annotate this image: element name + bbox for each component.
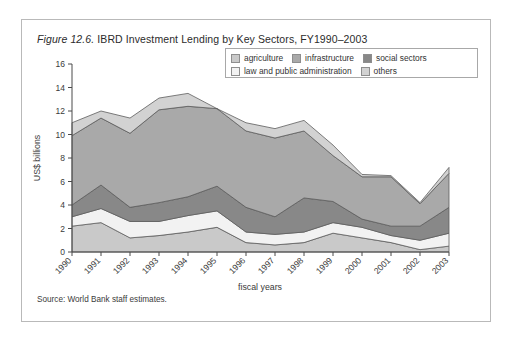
x-axis-ticks: 1990199119921993199419951996199719981999… bbox=[53, 252, 451, 276]
source-note: Source: World Bank staff estimates. bbox=[37, 295, 167, 304]
legend-label-law-and-public-administration: law and public administration bbox=[244, 66, 352, 76]
legend-row-2: law and public administration others bbox=[231, 65, 472, 77]
chart-legend: agriculture infrastructure social sector… bbox=[225, 48, 478, 78]
x-tick-label-1992: 1992 bbox=[111, 255, 132, 276]
legend-item-agriculture[interactable]: agriculture bbox=[231, 53, 283, 63]
legend-swatch-law-and-public-administration bbox=[231, 67, 240, 76]
legend-item-others[interactable]: others bbox=[361, 66, 397, 76]
legend-label-social-sectors: social sectors bbox=[376, 53, 427, 63]
y-axis-ticks: 0246810121416 bbox=[56, 59, 72, 257]
legend-item-infrastructure[interactable]: infrastructure bbox=[292, 53, 354, 63]
legend-item-law-and-public-administration[interactable]: law and public administration bbox=[231, 66, 352, 76]
legend-row-1: agriculture infrastructure social sector… bbox=[231, 52, 472, 64]
x-tick-label-1995: 1995 bbox=[198, 255, 219, 276]
x-tick-label-1999: 1999 bbox=[314, 255, 335, 276]
y-tick-label-8: 8 bbox=[60, 153, 65, 163]
y-tick-label-12: 12 bbox=[56, 106, 66, 116]
stacked-area-chart: 0246810121416 19901991199219931994199519… bbox=[22, 50, 490, 295]
legend-swatch-agriculture bbox=[231, 54, 240, 63]
x-tick-label-1998: 1998 bbox=[285, 255, 306, 276]
y-tick-label-4: 4 bbox=[60, 200, 65, 210]
legend-label-others: others bbox=[374, 66, 397, 76]
legend-item-social-sectors[interactable]: social sectors bbox=[363, 53, 427, 63]
legend-label-infrastructure: infrastructure bbox=[305, 53, 354, 63]
x-tick-label-2002: 2002 bbox=[401, 255, 422, 276]
y-tick-label-0: 0 bbox=[60, 247, 65, 257]
y-tick-label-14: 14 bbox=[56, 83, 66, 93]
legend-swatch-social-sectors bbox=[363, 54, 372, 63]
y-tick-label-10: 10 bbox=[56, 130, 66, 140]
y-tick-label-16: 16 bbox=[56, 59, 66, 69]
figure-number: Figure 12.6. bbox=[37, 33, 94, 45]
x-tick-label-1991: 1991 bbox=[82, 255, 103, 276]
x-tick-label-1997: 1997 bbox=[256, 255, 277, 276]
x-tick-label-2000: 2000 bbox=[343, 255, 364, 276]
area-series-group bbox=[72, 93, 449, 252]
figure-title-text: IBRD Investment Lending by Key Sectors, … bbox=[97, 33, 367, 45]
y-tick-label-2: 2 bbox=[60, 224, 65, 234]
figure-frame: Figure 12.6. IBRD Investment Lending by … bbox=[21, 19, 491, 322]
x-tick-label-1993: 1993 bbox=[140, 255, 161, 276]
x-tick-label-1996: 1996 bbox=[227, 255, 248, 276]
y-axis-title: US$ billions bbox=[32, 134, 42, 181]
legend-swatch-infrastructure bbox=[292, 54, 301, 63]
chart-plot-area: 0246810121416 19901991199219931994199519… bbox=[22, 50, 490, 295]
legend-label-agriculture: agriculture bbox=[244, 53, 283, 63]
legend-swatch-others bbox=[361, 67, 370, 76]
x-tick-label-1994: 1994 bbox=[169, 255, 190, 276]
x-axis-title: fiscal years bbox=[238, 282, 283, 292]
page-title: Figure 12.6. IBRD Investment Lending by … bbox=[37, 33, 367, 45]
x-tick-label-2001: 2001 bbox=[372, 255, 393, 276]
x-tick-label-2003: 2003 bbox=[430, 255, 451, 276]
y-tick-label-6: 6 bbox=[60, 177, 65, 187]
x-tick-label-1990: 1990 bbox=[53, 255, 74, 276]
